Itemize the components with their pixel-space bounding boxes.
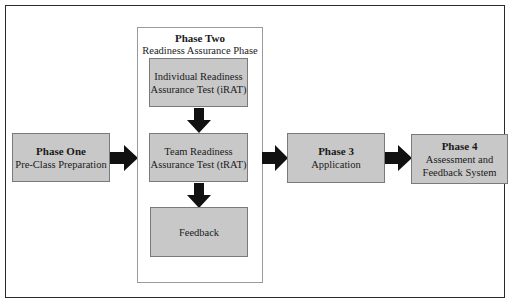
trat-line2: Assurance Test (tRAT) bbox=[151, 158, 247, 171]
irat-line1: Individual Readiness bbox=[154, 70, 242, 83]
phase-two-title: Phase Two bbox=[138, 32, 262, 45]
arrow-right-icon bbox=[262, 145, 288, 171]
irat-box: Individual Readiness Assurance Test (iRA… bbox=[149, 58, 248, 107]
phase-three-title: Phase 3 bbox=[318, 145, 354, 158]
trat-line1: Team Readiness bbox=[164, 145, 232, 158]
phase-three-box: Phase 3 Application bbox=[287, 133, 385, 183]
feedback-label: Feedback bbox=[179, 226, 219, 239]
phase-four-line2: Feedback System bbox=[423, 166, 497, 179]
phase-four-box: Phase 4 Assessment and Feedback System bbox=[411, 134, 508, 184]
trat-box: Team Readiness Assurance Test (tRAT) bbox=[149, 133, 248, 182]
feedback-box: Feedback bbox=[150, 207, 248, 257]
irat-line2: Assurance Test (iRAT) bbox=[151, 83, 247, 96]
phase-three-subtitle: Application bbox=[311, 158, 361, 171]
arrow-down-icon bbox=[187, 183, 211, 208]
arrow-down-icon bbox=[187, 108, 211, 133]
phase-four-title: Phase 4 bbox=[442, 140, 478, 153]
phase-four-line1: Assessment and bbox=[426, 153, 493, 166]
phase-one-title: Phase One bbox=[36, 145, 86, 158]
phase-two-subtitle: Readiness Assurance Phase bbox=[138, 45, 262, 56]
arrow-right-icon bbox=[385, 145, 412, 171]
phase-one-subtitle: Pre-Class Preparation bbox=[15, 158, 106, 171]
phase-one-box: Phase One Pre-Class Preparation bbox=[12, 133, 110, 182]
arrow-right-icon bbox=[110, 145, 138, 171]
